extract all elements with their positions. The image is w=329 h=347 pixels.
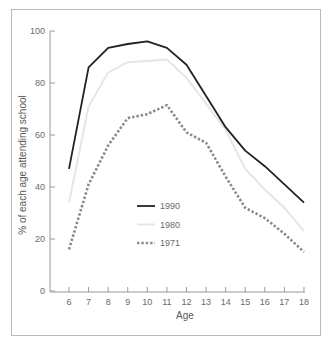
y-tick-label: 60 — [35, 130, 45, 140]
series-lines — [69, 41, 304, 252]
x-tick-label: 10 — [142, 297, 152, 307]
x-tick-label: 18 — [299, 297, 309, 307]
y-axis: 020406080100 — [30, 26, 55, 296]
y-tick-label: 0 — [40, 286, 45, 296]
legend-label-1980: 1980 — [160, 220, 180, 230]
x-tick-label: 12 — [181, 297, 191, 307]
legend-label-1990: 1990 — [160, 201, 180, 211]
series-line-1971 — [69, 105, 304, 252]
x-axis: 6789101112131415161718 — [50, 287, 309, 307]
x-tick-label: 8 — [106, 297, 111, 307]
x-tick-label: 16 — [260, 297, 270, 307]
x-tick-label: 6 — [66, 297, 71, 307]
line-chart: 020406080100 6789101112131415161718 1990… — [0, 0, 329, 347]
x-tick-label: 14 — [221, 297, 231, 307]
x-tick-label: 9 — [125, 297, 130, 307]
legend: 199019801971 — [137, 201, 180, 248]
x-tick-label: 17 — [279, 297, 289, 307]
y-axis-title: % of each age attending school — [17, 95, 28, 235]
x-tick-label: 15 — [240, 297, 250, 307]
x-tick-label: 7 — [86, 297, 91, 307]
y-tick-label: 20 — [35, 234, 45, 244]
y-tick-label: 40 — [35, 182, 45, 192]
series-line-1980 — [69, 60, 304, 232]
x-tick-label: 11 — [162, 297, 171, 307]
series-line-1990 — [69, 41, 304, 202]
y-tick-label: 80 — [35, 78, 45, 88]
x-axis-title: Age — [176, 310, 194, 321]
x-tick-label: 13 — [201, 297, 211, 307]
y-tick-label: 100 — [30, 26, 45, 36]
legend-label-1971: 1971 — [160, 238, 180, 248]
